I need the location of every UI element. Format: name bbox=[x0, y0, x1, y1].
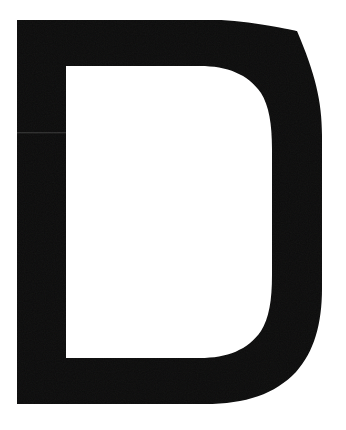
artwork-canvas bbox=[0, 0, 346, 430]
letter-d-glyph bbox=[0, 0, 346, 430]
